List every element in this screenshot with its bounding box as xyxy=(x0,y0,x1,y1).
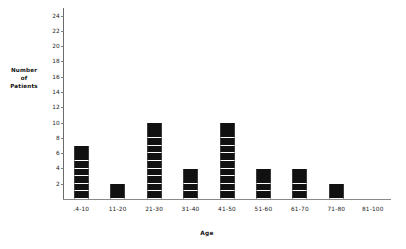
bar-segment xyxy=(292,169,307,177)
bar-segment xyxy=(183,176,198,184)
bar-segment xyxy=(183,184,198,192)
bar-61-70 xyxy=(280,169,320,200)
bar-segment xyxy=(329,191,344,199)
bar-stack xyxy=(256,169,271,200)
bar-stack xyxy=(110,184,125,199)
y-tick-label: 16 xyxy=(30,74,60,80)
bar-segment xyxy=(329,184,344,192)
y-tick-label: 18 xyxy=(30,58,60,64)
bar-segment xyxy=(220,191,235,199)
y-tick-label: 24 xyxy=(30,13,60,19)
bar-31-40 xyxy=(171,169,211,200)
bar-segment xyxy=(74,176,89,184)
bar-segment xyxy=(147,176,162,184)
bar-segment xyxy=(110,191,125,199)
bar-segment xyxy=(256,176,271,184)
y-tick-label: 14 xyxy=(30,89,60,95)
bar-segment xyxy=(220,176,235,184)
bar-stack xyxy=(74,146,89,199)
y-tick-label: 20 xyxy=(30,43,60,49)
y-tick-label: 10 xyxy=(30,120,60,126)
bar-segment xyxy=(110,184,125,192)
bar-segment xyxy=(220,123,235,131)
bar-segment xyxy=(74,169,89,177)
bar-segment xyxy=(220,138,235,146)
bar-segment xyxy=(147,153,162,161)
bar-segment xyxy=(74,153,89,161)
bar-segment xyxy=(220,146,235,154)
bar-segment xyxy=(292,176,307,184)
bar-segment xyxy=(220,130,235,138)
y-tick-label: 12 xyxy=(30,104,60,110)
x-tick-label: 81-100 xyxy=(346,206,400,213)
y-tick-label: 2 xyxy=(30,181,60,187)
y-tick-label: 22 xyxy=(30,28,60,34)
bar-segment xyxy=(74,191,89,199)
y-tick-label: 6 xyxy=(30,150,60,156)
bar-segment xyxy=(147,130,162,138)
bar-segment xyxy=(147,138,162,146)
bar-segment xyxy=(147,191,162,199)
y-tick-label: 4 xyxy=(30,165,60,171)
bar-segment xyxy=(292,191,307,199)
x-axis-line xyxy=(63,199,391,200)
bar-51-60 xyxy=(243,169,283,200)
bar-.4-10 xyxy=(61,146,101,199)
bar-segment xyxy=(74,146,89,154)
bar-segment xyxy=(256,184,271,192)
bar-segment xyxy=(147,161,162,169)
bar-stack xyxy=(147,123,162,199)
bar-segment xyxy=(220,153,235,161)
bar-segment xyxy=(183,191,198,199)
x-axis-title: Age xyxy=(0,230,406,236)
bar-41-50 xyxy=(207,123,247,199)
bar-segment xyxy=(220,169,235,177)
bar-segment xyxy=(147,146,162,154)
bar-segment xyxy=(256,191,271,199)
bars-layer xyxy=(63,8,391,199)
bar-segment xyxy=(256,169,271,177)
bar-segment xyxy=(147,123,162,131)
bar-segment xyxy=(147,169,162,177)
bar-segment xyxy=(220,161,235,169)
y-tick-label: 8 xyxy=(30,135,60,141)
bar-stack xyxy=(220,123,235,199)
bar-segment xyxy=(147,184,162,192)
bar-segment xyxy=(74,184,89,192)
bar-segment xyxy=(220,184,235,192)
bar-segment xyxy=(292,184,307,192)
bar-stack xyxy=(329,184,344,199)
bar-segment xyxy=(74,161,89,169)
x-axis-title-text: Age xyxy=(200,230,213,236)
bar-stack xyxy=(292,169,307,200)
bar-stack xyxy=(183,169,198,200)
bar-11-20 xyxy=(98,184,138,199)
bar-segment xyxy=(183,169,198,177)
bar-71-80 xyxy=(316,184,356,199)
histogram-chart: Number of Patients 24681012141618202224 … xyxy=(0,0,406,249)
bar-21-30 xyxy=(134,123,174,199)
